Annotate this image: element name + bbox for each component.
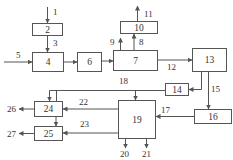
svg-text:16: 16 (208, 112, 218, 122)
box-2: 2 (33, 24, 63, 36)
label-21: 21 (142, 149, 151, 159)
arrow-13-14 (189, 72, 202, 90)
svg-text:2: 2 (45, 25, 50, 35)
svg-text:7: 7 (133, 56, 138, 66)
svg-text:4: 4 (46, 57, 51, 67)
box-4: 4 (33, 53, 64, 72)
label-23: 23 (80, 119, 90, 129)
svg-text:25: 25 (44, 129, 54, 139)
label-12: 12 (167, 62, 176, 72)
box-7: 7 (114, 51, 158, 71)
label-22: 22 (79, 97, 88, 107)
label-20: 20 (120, 149, 130, 159)
box-24: 24 (35, 102, 63, 117)
box-19: 19 (119, 101, 156, 139)
label-3: 3 (53, 38, 58, 48)
label-11: 11 (144, 9, 153, 19)
box-14: 14 (166, 84, 189, 96)
svg-text:14: 14 (172, 85, 182, 95)
arrow-18-to-24 (50, 91, 166, 102)
svg-text:10: 10 (134, 23, 144, 33)
svg-text:19: 19 (132, 115, 142, 125)
label-15: 15 (211, 84, 221, 94)
box-13: 13 (193, 49, 227, 72)
box-6: 6 (78, 53, 102, 72)
label-8: 8 (139, 37, 144, 47)
label-27: 27 (7, 129, 17, 139)
label-1: 1 (53, 7, 58, 17)
box-16: 16 (195, 110, 232, 124)
label-26: 26 (7, 104, 17, 114)
label-18: 18 (119, 76, 129, 86)
label-5: 5 (16, 50, 21, 60)
svg-text:6: 6 (87, 57, 92, 67)
label-9: 9 (110, 37, 115, 47)
box-25: 25 (35, 127, 63, 141)
svg-text:24: 24 (44, 104, 54, 114)
svg-text:13: 13 (205, 55, 215, 65)
label-17: 17 (161, 105, 171, 115)
box-10: 10 (121, 22, 158, 34)
flow-diagram: 2 4 6 7 10 13 14 16 19 24 25 1 (0, 0, 233, 160)
